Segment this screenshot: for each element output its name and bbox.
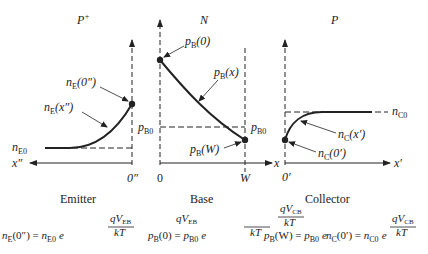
emitter-origin-label: 0″ [127, 171, 139, 185]
base-axis-label: x [273, 156, 280, 170]
svg-text:qVCB: qVCB [280, 202, 302, 216]
emitter-boundary-pointer [100, 87, 128, 101]
svg-text:qVEB: qVEB [110, 212, 132, 226]
bjt-minority-carrier-diagram: P+ nE(0″) nE(x″) nE0 x″ 0″ Emitter N pB(… [0, 0, 428, 254]
collector-boundary-label: nC(0′) [318, 146, 346, 162]
base-curve-pointer [199, 80, 218, 101]
base-panel: N pB(0) pB(x) pB0 pB0 pB(W) 0 W x Base [137, 13, 280, 206]
emitter-caption: Emitter [60, 192, 96, 206]
base-doping-label: N [199, 13, 209, 27]
emitter-doping-label: P+ [76, 12, 90, 27]
collector-boundary-dot [282, 137, 288, 143]
emitter-boundary-dot [129, 101, 135, 107]
base-right-boundary-dot [242, 137, 248, 143]
collector-curve-pointer [301, 121, 336, 133]
base-width-label: W [240, 171, 251, 185]
collector-curve-label: nC(x′) [338, 127, 365, 143]
base-equilibrium-label-right: pB0 [250, 120, 266, 136]
emitter-panel: P+ nE(0″) nE(x″) nE0 x″ 0″ Emitter [11, 12, 139, 206]
svg-text:pB(0) = pB0e: pB(0) = pB0e [147, 229, 206, 244]
collector-origin-label: 0′ [282, 170, 291, 184]
emitter-curve-pointer [82, 112, 107, 127]
svg-text:nE(0″) = nE0e: nE(0″) = nE0e [2, 229, 64, 244]
svg-text:pB(W) = pB0e: pB(W) = pB0e [263, 229, 327, 244]
svg-text:kT: kT [284, 216, 296, 228]
base-left-boundary-label: pB(0) [184, 34, 210, 50]
base-left-boundary-dot [157, 57, 163, 63]
base-origin-label: 0 [157, 171, 163, 185]
base-equilibrium-label-left: pB0 [137, 120, 153, 136]
base-right-boundary-label: pB(W) [189, 142, 219, 158]
equation-collector-boundary: nC(0′) = nC0e qVCB kT [326, 212, 416, 244]
equation-emitter-boundary: nE(0″) = nE0e qVEB kT [2, 212, 134, 244]
svg-text:qVEB: qVEB [176, 212, 198, 226]
boundary-equations: nE(0″) = nE0e qVEB kT pB(0) = pB0e qVEB … [2, 202, 416, 244]
equation-base-left-boundary: pB(0) = pB0e qVEB kT [147, 212, 270, 244]
emitter-boundary-label: nE(0″) [66, 75, 96, 91]
equation-base-right-boundary: pB(W) = pB0e qVCB kT [263, 202, 327, 244]
collector-doping-label: P [330, 13, 339, 27]
svg-text:qVCB: qVCB [392, 212, 414, 226]
collector-equilibrium-label: nC0 [392, 104, 407, 120]
svg-text:kT: kT [114, 226, 126, 238]
emitter-axis-label: x″ [11, 156, 23, 170]
base-right-boundary-pointer [224, 142, 241, 148]
emitter-curve-label: nE(x″) [44, 100, 73, 116]
svg-text:nC(0′) = nC0e: nC(0′) = nC0e [326, 229, 387, 244]
svg-text:kT: kT [250, 226, 262, 238]
collector-panel: P nC(x′) nC(0′) nC0 0′ x′ Collector [282, 13, 408, 206]
collector-axis-label: x′ [393, 156, 402, 170]
base-curve-label: pB(x) [213, 65, 239, 81]
emitter-equilibrium-label: nE0 [12, 140, 27, 156]
svg-text:kT: kT [396, 226, 408, 238]
base-left-boundary-pointer [164, 46, 184, 57]
base-caption: Base [190, 192, 213, 206]
collector-caption: Collector [305, 192, 350, 206]
collector-boundary-pointer [289, 142, 316, 152]
